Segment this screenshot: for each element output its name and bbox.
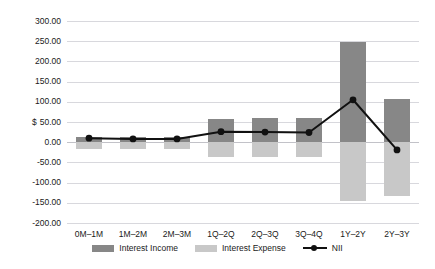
y-axis-tick-label: -150.00	[1, 198, 61, 207]
legend-label: Interest Expense	[222, 243, 286, 253]
gridline	[67, 223, 419, 224]
nii-data-point	[86, 135, 93, 142]
legend-item[interactable]: Interest Income	[92, 243, 178, 253]
nii-data-point	[130, 136, 137, 143]
chart-legend: Interest IncomeInterest ExpenseNII	[0, 243, 435, 253]
y-axis-tick-label: 250.00	[1, 37, 61, 46]
y-axis-tick-label: -100.00	[1, 178, 61, 187]
y-axis-tick-label: 150.00	[1, 77, 61, 86]
y-axis-tick-label: -50.00	[1, 158, 61, 167]
x-axis-tick-label: 3Q–4Q	[287, 229, 331, 239]
nii-line	[89, 100, 397, 150]
legend-item[interactable]: NII	[303, 243, 343, 253]
x-axis-tick-label: 1Y–2Y	[331, 229, 375, 239]
y-axis-tick-label: 300.00	[1, 17, 61, 26]
nii-line-series	[67, 21, 419, 223]
legend-item[interactable]: Interest Expense	[195, 243, 286, 253]
x-axis-tick-label: 2M–3M	[155, 229, 199, 239]
legend-label: NII	[332, 243, 343, 253]
x-axis-tick-label: 2Y–3Y	[375, 229, 419, 239]
nii-data-point	[394, 146, 401, 153]
nii-data-point	[218, 128, 225, 135]
y-axis-tick-label: 50.00	[1, 118, 61, 127]
income-swatch-icon	[92, 245, 114, 252]
y-axis-tick-label: -200.00	[1, 219, 61, 228]
chart-container: $ 300.00250.00200.00150.00100.0050.000.0…	[0, 0, 435, 269]
x-axis-tick-label: 2Q–3Q	[243, 229, 287, 239]
x-axis-tick-label: 1Q–2Q	[199, 229, 243, 239]
nii-data-point	[174, 136, 181, 143]
expense-swatch-icon	[195, 245, 217, 252]
y-axis-tick-label: 0.00	[1, 138, 61, 147]
line-marker-icon	[303, 244, 327, 252]
x-axis-tick-label: 1M–2M	[111, 229, 155, 239]
plot-area	[67, 21, 419, 223]
nii-data-point	[306, 129, 313, 136]
nii-data-point	[350, 96, 357, 103]
y-axis-tick-label: 200.00	[1, 57, 61, 66]
legend-label: Interest Income	[119, 243, 178, 253]
nii-data-point	[262, 129, 269, 136]
y-axis-tick-label: 100.00	[1, 97, 61, 106]
x-axis-tick-label: 0M–1M	[67, 229, 111, 239]
